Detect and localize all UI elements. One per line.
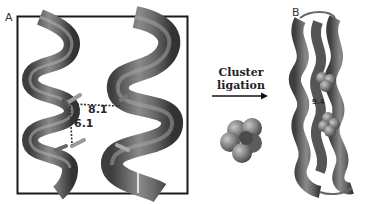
distance-label-6-1: 6.1 (74, 117, 94, 130)
transition-caption: Cluster ligation (212, 66, 270, 92)
distance-label-9-4: 9.4 (312, 98, 324, 106)
distance-label-8-1: 8.1 (88, 103, 108, 116)
caption-line-1: Cluster (212, 66, 270, 79)
ligation-arrow (212, 93, 268, 100)
fe4s4-cluster (220, 118, 262, 163)
caption-line-2: ligation (212, 79, 270, 92)
panel-b-label: B (292, 6, 300, 19)
panel-a-label: A (5, 11, 13, 24)
